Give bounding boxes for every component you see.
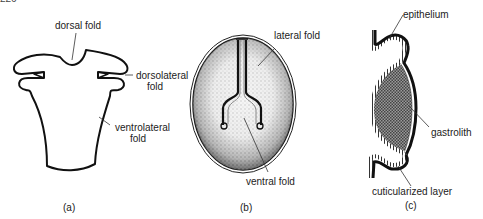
label-dorsolateral-fold-line1: dorsolateral bbox=[136, 70, 188, 81]
leader-cuticularized-layer bbox=[398, 166, 411, 186]
leader-dorsal-fold bbox=[72, 33, 76, 60]
label-lateral-fold: lateral fold bbox=[274, 30, 320, 41]
label-cuticularized-layer: cuticularized layer bbox=[372, 186, 452, 197]
label-ventral-fold: ventral fold bbox=[246, 176, 295, 187]
caption-a: (a) bbox=[63, 202, 75, 213]
label-gastrolith: gastrolith bbox=[431, 127, 472, 138]
label-ventrolateral-fold-line1: ventrolateral bbox=[115, 122, 170, 133]
panel-b-oval bbox=[190, 35, 296, 173]
label-ventrolateral-fold-line2: fold bbox=[130, 133, 146, 144]
leader-ventrolateral-fold bbox=[99, 117, 110, 125]
caption-b: (b) bbox=[240, 202, 252, 213]
label-dorsolateral-fold-line2: fold bbox=[147, 81, 163, 92]
label-dorsal-fold: dorsal fold bbox=[55, 20, 101, 31]
panel-c-section bbox=[370, 30, 416, 178]
label-epithelium: epithelium bbox=[403, 9, 449, 20]
caption-c: (c) bbox=[405, 200, 417, 211]
panel-a-outline bbox=[14, 50, 128, 170]
